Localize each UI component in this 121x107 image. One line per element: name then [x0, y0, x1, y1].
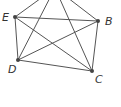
- complete-graph-diagram: E B D C: [0, 0, 121, 107]
- vertex-label-e: E: [2, 11, 9, 24]
- graph-vertices: [13, 0, 100, 73]
- vertex-label-d: D: [8, 63, 16, 76]
- vertex-c: [90, 69, 94, 73]
- edge-b-c: [92, 21, 98, 71]
- vertex-e: [13, 15, 17, 19]
- graph-edges: [15, 0, 98, 71]
- vertex-label-c: C: [95, 73, 103, 86]
- edge-b-d: [18, 21, 98, 60]
- edge-d-e: [15, 17, 18, 60]
- vertex-label-b: B: [105, 15, 113, 28]
- edge-a-e: [15, 0, 55, 17]
- vertex-b: [96, 19, 100, 23]
- vertex-d: [16, 58, 20, 62]
- edge-b-e: [15, 17, 98, 21]
- edge-c-d: [18, 60, 92, 71]
- edge-a-c: [55, 0, 92, 71]
